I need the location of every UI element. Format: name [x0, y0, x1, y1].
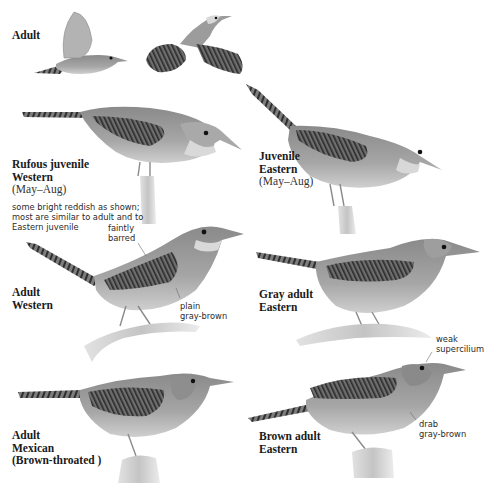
figure-name: Adult [12, 29, 40, 42]
figure-season: (May–Aug) [259, 175, 313, 188]
illustrations [0, 0, 485, 483]
label-brown-adult-eastern: Brown adult Eastern [259, 430, 320, 455]
label-rufous-juvenile-western: Rufous juvenile Western (May–Aug) [12, 158, 89, 196]
callout-line: gray-brown [419, 429, 466, 439]
field-guide-plate: Adult Rufous juvenile Western (May–Aug) … [0, 0, 485, 483]
callout-faintly-barred: faintly barred [108, 223, 135, 243]
figure-name-line2: Western [12, 299, 53, 312]
figure-name-line1: Adult [12, 429, 101, 442]
callout-line: faintly [108, 223, 135, 233]
label-adult-flight: Adult [12, 29, 40, 42]
callout-plain-gray-brown: plain gray-brown [180, 301, 227, 321]
figure-name-line2: Eastern [259, 301, 313, 314]
figure-season: (May–Aug) [12, 183, 89, 196]
figure-name-line1: Juvenile [259, 150, 313, 163]
bird-adult-flight-side [34, 12, 128, 74]
label-juvenile-eastern: Juvenile Eastern (May–Aug) [259, 150, 313, 188]
callout-weak-supercilium: weak supercilium [436, 334, 484, 354]
label-adult-western: Adult Western [12, 286, 53, 311]
callout-line: drab [419, 419, 466, 429]
callout-line: plain [180, 301, 227, 311]
callout-line: barred [108, 233, 135, 243]
bird-adult-western [26, 227, 244, 363]
callout-line: gray-brown [180, 311, 227, 321]
note-line: most are similar to adult and to [12, 212, 143, 222]
figure-name-line3: (Brown-throated ) [12, 454, 101, 467]
callout-line: supercilium [436, 344, 484, 354]
label-gray-adult-eastern: Gray adult Eastern [259, 288, 313, 313]
bird-adult-flight-spread [146, 15, 243, 74]
figure-name-line1: Brown adult [259, 430, 320, 443]
callout-line: weak [436, 334, 484, 344]
callout-drab-gray-brown: drab gray-brown [419, 419, 466, 439]
note-line: some bright reddish as shown; [12, 202, 143, 212]
figure-name-line2: Eastern [259, 443, 320, 456]
label-adult-mexican: Adult Mexican (Brown-throated ) [12, 429, 101, 467]
figure-name-line2: Mexican [12, 442, 101, 455]
figure-name-line2: Eastern [259, 163, 313, 176]
figure-name-line1: Rufous juvenile [12, 158, 89, 171]
figure-name-line1: Gray adult [259, 288, 313, 301]
figure-name-line1: Adult [12, 286, 53, 299]
figure-name-line2: Western [12, 171, 89, 184]
